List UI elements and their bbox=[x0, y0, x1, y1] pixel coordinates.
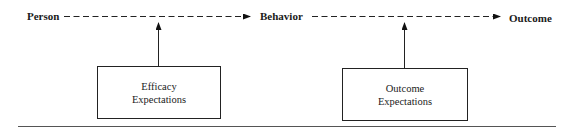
box-outcome-line2: Expectations bbox=[378, 95, 432, 108]
box-outcome-expectations: Outcome Expectations bbox=[342, 68, 468, 121]
box-efficacy-line2: Expectations bbox=[132, 93, 186, 106]
box-efficacy-expectations: Efficacy Expectations bbox=[97, 66, 221, 119]
node-behavior: Behavior bbox=[260, 10, 303, 22]
bottom-rule bbox=[18, 126, 556, 127]
node-person: Person bbox=[27, 10, 59, 22]
box-efficacy-line1: Efficacy bbox=[141, 80, 176, 93]
node-outcome: Outcome bbox=[509, 12, 552, 24]
box-outcome-line1: Outcome bbox=[386, 82, 425, 95]
